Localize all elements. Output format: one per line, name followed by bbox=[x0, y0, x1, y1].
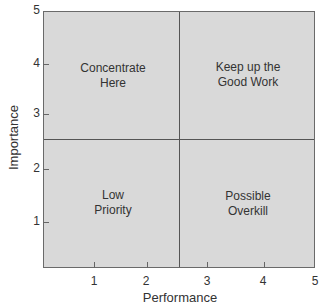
y-tick-label-5: 5 bbox=[28, 3, 40, 17]
quadrant-label-line: Here bbox=[48, 76, 178, 91]
x-tick-label-4: 4 bbox=[257, 274, 269, 288]
quadrant-label-line: Overkill bbox=[183, 204, 313, 219]
y-tick-label-2: 2 bbox=[28, 161, 40, 175]
x-tick-4 bbox=[264, 262, 265, 268]
x-tick-label-2: 2 bbox=[140, 274, 152, 288]
quadrant-label-line: Priority bbox=[48, 203, 178, 218]
y-tick-label-3: 3 bbox=[28, 106, 40, 120]
quadrant-plot-area: Concentrate Here Keep up the Good Work L… bbox=[43, 11, 315, 268]
quadrant-concentrate-here: Concentrate Here bbox=[48, 61, 178, 91]
x-tick-label-5: 5 bbox=[309, 274, 321, 288]
y-tick-2 bbox=[43, 169, 49, 170]
quadrant-label-line: Possible bbox=[183, 189, 313, 204]
x-tick-label-3: 3 bbox=[201, 274, 213, 288]
y-axis-title: Importance bbox=[6, 103, 21, 173]
quadrant-label-line: Good Work bbox=[183, 75, 313, 90]
y-tick-4 bbox=[43, 64, 49, 65]
quadrant-label-line: Low bbox=[48, 188, 178, 203]
y-tick-1 bbox=[43, 222, 49, 223]
y-tick-label-1: 1 bbox=[28, 214, 40, 228]
quadrant-possible-overkill: Possible Overkill bbox=[183, 189, 313, 219]
quadrant-keep-up-good-work: Keep up the Good Work bbox=[183, 60, 313, 90]
horizontal-divider bbox=[44, 139, 314, 140]
x-tick-label-1: 1 bbox=[88, 274, 100, 288]
x-tick-1 bbox=[94, 262, 95, 268]
x-tick-3 bbox=[207, 262, 208, 268]
quadrant-label-line: Concentrate bbox=[48, 61, 178, 76]
x-tick-2 bbox=[147, 262, 148, 268]
quadrant-label-line: Keep up the bbox=[183, 60, 313, 75]
y-tick-3 bbox=[43, 114, 49, 115]
quadrant-low-priority: Low Priority bbox=[48, 188, 178, 218]
x-axis-title: Performance bbox=[140, 290, 220, 305]
y-tick-label-4: 4 bbox=[28, 56, 40, 70]
